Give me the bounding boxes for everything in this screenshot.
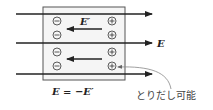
internal-field-label: E′ [79, 16, 91, 27]
external-field-label: E [156, 38, 165, 49]
equation-label: E = −E′ [51, 86, 94, 97]
annotation-curve [118, 67, 171, 89]
annotation-label: とりだし可能 [136, 89, 196, 101]
diagram-canvas: E′ E E = −E′ とりだし可能 [0, 0, 213, 110]
